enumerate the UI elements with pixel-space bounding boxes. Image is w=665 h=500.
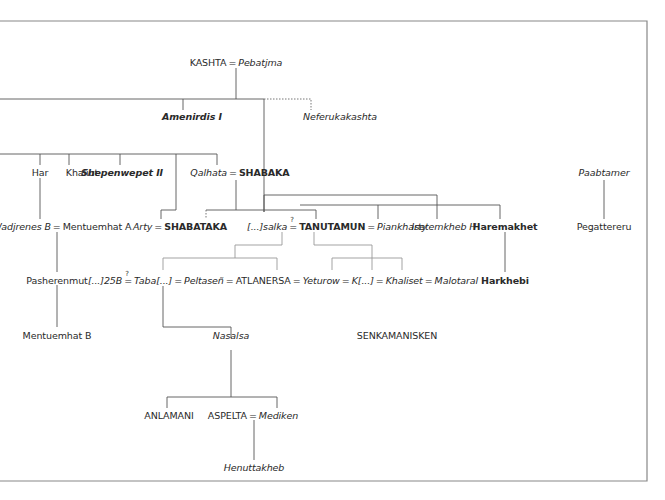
marriage-symbol: = (154, 221, 162, 232)
person-pegattereru: Pegattereru (577, 221, 632, 233)
person-nasalsa: Nasalsa (213, 330, 249, 342)
person-kashta: KASHTA (190, 57, 227, 68)
person-k: K[...] (352, 275, 374, 286)
marriage-symbol: = (174, 275, 182, 286)
couple-wadjrenes-mentuemhat: Wadjrenes B=Mentuemhat A (0, 221, 132, 233)
person-shepenwepet-ii: Shepenwepet II (81, 167, 163, 179)
person-henuttakheb: Henuttakheb (224, 462, 285, 474)
marriage-chain-atlanersa: [...]25B?=Taba[...]=Peltaseñ=ATLANERSA=Y… (88, 275, 478, 287)
person-isetemkheb-h: Isetemkheb H (412, 221, 477, 233)
person-khaliset: Khaliset (386, 275, 423, 286)
person-senkamanisken: SENKAMANISKEN (357, 330, 437, 342)
person-pasherenmut: Pasherenmut (26, 275, 87, 287)
person-qalhata: Qalhata (190, 167, 227, 178)
marriage-symbol: = (342, 275, 350, 286)
person-yeturow: Yeturow (303, 275, 340, 286)
person-salka: [...]salka (247, 221, 287, 232)
person-malotaral: Malotaral (435, 275, 478, 286)
person-mediken: Mediken (259, 410, 298, 421)
person-harkhebi: Harkhebi (481, 275, 529, 287)
person-shabaka: SHABAKA (239, 167, 290, 178)
couple-qalhata-shabaka: Qalhata=SHABAKA (190, 167, 289, 179)
person-25b: [...]25B (88, 275, 122, 286)
person-anlamani: ANLAMANI (144, 410, 193, 422)
person-taba: Taba[...] (134, 275, 172, 286)
uncertain-marriage-symbol: ?= (124, 275, 132, 287)
marriage-symbol: = (226, 275, 234, 286)
couple-aspelta-mediken: ASPELTA=Mediken (208, 410, 298, 422)
person-mentuemhat-b: Mentuemhat B (23, 330, 92, 342)
person-peltasen: Peltaseñ (184, 275, 224, 286)
person-mentuemhat-a: Mentuemhat A (63, 221, 132, 232)
person-paabtamer: Paabtamer (578, 167, 629, 179)
person-har: Har (32, 167, 49, 179)
person-amenirdis-i: Amenirdis I (162, 111, 222, 123)
tree-connectors (0, 0, 665, 500)
question-mark: ? (125, 268, 129, 280)
couple-kashta-pebatjma: KASHTA=Pebatjma (190, 57, 283, 69)
family-tree-diagram: KASHTA=Pebatjma Amenirdis I Neferukakash… (0, 0, 665, 500)
couple-salka-tanutamun-piankharty: [...]salka?=TANUTAMUN=Piankharty (247, 221, 427, 233)
person-atlanersa: ATLANERSA (236, 275, 291, 286)
marriage-symbol: = (249, 410, 257, 421)
couple-arty-shabataka: Arty=SHABATAKA (133, 221, 227, 233)
person-tanutamun: TANUTAMUN (299, 221, 365, 232)
person-wadjrenes-b: Wadjrenes B (0, 221, 51, 232)
question-mark: ? (290, 214, 294, 226)
person-neferukakashta: Neferukakashta (303, 111, 377, 123)
person-haremakhet: Haremakhet (473, 221, 538, 233)
marriage-symbol: = (53, 221, 61, 232)
diagram-frame (0, 21, 647, 481)
marriage-symbol: = (376, 275, 384, 286)
marriage-symbol: = (367, 221, 375, 232)
uncertain-marriage-symbol: ?= (289, 221, 297, 233)
person-arty: Arty (133, 221, 152, 232)
person-aspelta: ASPELTA (208, 410, 247, 421)
person-pebatjma: Pebatjma (238, 57, 282, 68)
marriage-symbol: = (229, 167, 237, 178)
marriage-symbol: = (425, 275, 433, 286)
person-shabataka: SHABATAKA (164, 221, 227, 232)
marriage-symbol: = (293, 275, 301, 286)
marriage-symbol: = (228, 57, 236, 68)
